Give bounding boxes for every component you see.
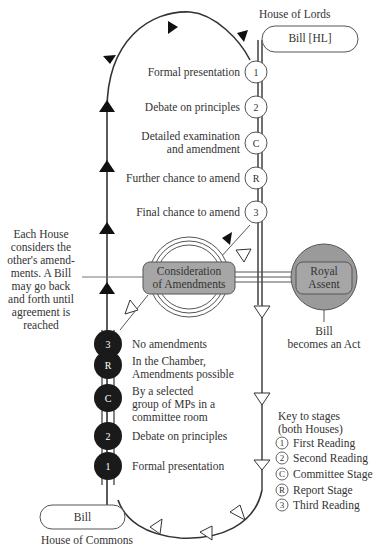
commons-badge-3: 3 xyxy=(97,338,119,351)
lords-badge-r: R xyxy=(245,172,267,185)
key-symbol: 1 xyxy=(276,437,288,450)
key-symbol: 3 xyxy=(276,499,288,512)
commons-stage-label: In the Chamber, Amendments possible xyxy=(132,355,234,381)
lords-badge-2: 2 xyxy=(245,101,267,114)
bill-becomes-act: Bill becomes an Act xyxy=(284,325,364,351)
house-of-commons-title: House of Commons xyxy=(41,534,133,547)
lords-stage-label: Debate on principles xyxy=(100,101,240,114)
commons-badge-1: 1 xyxy=(97,460,119,473)
commons-stage-label: By a selected group of MPs in a committe… xyxy=(132,385,215,424)
lords-stage-label: Detailed examination and amendment xyxy=(100,130,240,156)
key-title: Key to stages (both Houses) xyxy=(278,410,343,436)
house-of-lords-title: House of Lords xyxy=(259,8,331,21)
lords-badge-1: 1 xyxy=(245,66,267,79)
consideration-of-amendments: Consideration of Amendments xyxy=(143,265,235,291)
key-label: Second Reading xyxy=(293,452,368,465)
bill-hl-box: Bill [HL] xyxy=(262,32,358,45)
commons-stage-label: Debate on principles xyxy=(132,430,227,443)
commons-stage-label: No amendments xyxy=(132,338,207,351)
key-label: Committee Stage xyxy=(293,468,373,481)
lords-badge-c: C xyxy=(245,137,267,150)
commons-badge-r: R xyxy=(97,359,119,372)
bill-commons-box: Bill xyxy=(40,511,125,524)
lords-stage-label: Further chance to amend xyxy=(100,172,240,185)
commons-badge-c: C xyxy=(97,392,119,405)
key-symbol: R xyxy=(276,484,288,497)
commons-stage-label: Formal presentation xyxy=(132,460,224,473)
key-label: Report Stage xyxy=(293,484,353,497)
lords-badge-3: 3 xyxy=(245,206,267,219)
royal-assent: Royal Assent xyxy=(296,265,352,291)
key-label: Third Reading xyxy=(293,499,360,512)
lords-stage-label: Formal presentation xyxy=(100,66,240,79)
lords-stage-label: Final chance to amend xyxy=(100,206,240,219)
key-label: First Reading xyxy=(293,437,355,450)
key-symbol: 2 xyxy=(276,452,288,465)
commons-badge-2: 2 xyxy=(97,430,119,443)
ping-pong-note: Each House considers the other's amend- … xyxy=(0,228,82,332)
key-symbol: C xyxy=(276,468,288,481)
